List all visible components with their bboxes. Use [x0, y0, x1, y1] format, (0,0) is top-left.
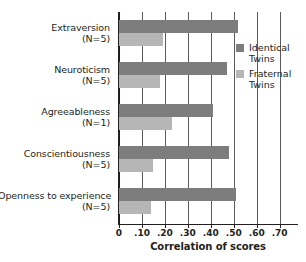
x-axis-tick-label: .70 [272, 228, 288, 239]
category-label-agreeableness: Agreeableness (N=1) [0, 106, 110, 128]
category-sample-size: (N=5) [0, 201, 110, 212]
category-name: Neuroticism [0, 64, 110, 75]
category-name: Conscientiousness [0, 148, 110, 159]
category-sample-size: (N=5) [0, 75, 110, 86]
category-sample-size: (N=1) [0, 117, 110, 128]
x-axis-tick-label: 0 [116, 228, 122, 239]
bar-fraternal [119, 201, 151, 214]
category-axis-labels: Extraversion (N=5) Neuroticism (N=5) Agr… [0, 12, 114, 225]
bar-fraternal [119, 159, 153, 172]
category-label-extraversion: Extraversion (N=5) [0, 22, 110, 44]
legend-label-line1: Fraternal [249, 68, 306, 79]
x-axis-tick-label: .20 [157, 228, 173, 239]
category-label-neuroticism: Neuroticism (N=5) [0, 64, 110, 86]
bar-identical [119, 188, 236, 201]
category-label-conscientiousness: Conscientiousness (N=5) [0, 148, 110, 170]
twin-correlation-bar-chart: Extraversion (N=5) Neuroticism (N=5) Agr… [0, 0, 306, 262]
category-name: Extraversion [0, 22, 110, 33]
x-axis-tick-label: .10 [134, 228, 150, 239]
category-name: Agreeableness [0, 106, 110, 117]
legend-label-line1: Identical [249, 42, 306, 53]
legend-swatch-fraternal-icon [236, 70, 244, 78]
x-axis-title: Correlation of scores [118, 241, 298, 252]
legend-label-line2: Twins [249, 53, 306, 64]
x-axis-line [118, 224, 298, 226]
bar-fraternal [119, 75, 160, 88]
bar-identical [119, 146, 229, 159]
legend: Identical Twins Fraternal Twins [236, 42, 306, 94]
legend-swatch-identical-icon [236, 44, 244, 52]
category-sample-size: (N=5) [0, 33, 110, 44]
x-axis-tick-label: .40 [203, 228, 219, 239]
bar-identical [119, 104, 213, 117]
bar-identical [119, 20, 238, 33]
x-axis-tick-label: .60 [249, 228, 265, 239]
legend-item-fraternal-twins[interactable]: Fraternal Twins [236, 68, 306, 90]
category-sample-size: (N=5) [0, 159, 110, 170]
x-axis-tick-label: .30 [180, 228, 196, 239]
category-label-openness-to-experience: Openness to experience (N=5) [0, 190, 110, 212]
legend-label-line2: Twins [249, 79, 306, 90]
bar-fraternal [119, 117, 172, 130]
x-axis-tick-label: .50 [226, 228, 242, 239]
legend-item-identical-twins[interactable]: Identical Twins [236, 42, 306, 64]
bar-identical [119, 62, 227, 75]
category-name: Openness to experience [0, 190, 110, 201]
bar-fraternal [119, 33, 163, 46]
